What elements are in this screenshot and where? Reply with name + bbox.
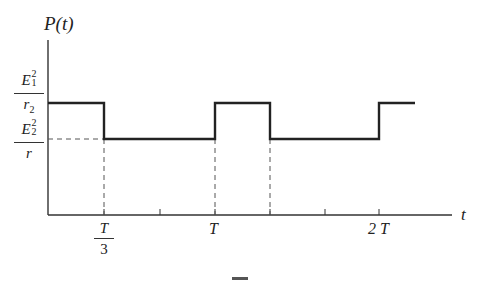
- y-axis-label: P(t): [44, 14, 74, 33]
- x-tick-label-t: T: [209, 221, 218, 237]
- figure-caption: [232, 268, 252, 281]
- x-tick-label-2t: 2 T: [368, 221, 389, 237]
- y-level-low-label: E22 r: [14, 121, 44, 161]
- x-tick-label-t-third: T 3: [94, 220, 114, 257]
- y-level-high-label: E21 r2: [14, 72, 44, 118]
- dashed-guides: [48, 139, 270, 215]
- power-waveform: [48, 103, 415, 139]
- x-axis-ticks: [104, 209, 379, 215]
- x-axis-label: t: [461, 206, 466, 223]
- waveform-plot: [0, 0, 482, 281]
